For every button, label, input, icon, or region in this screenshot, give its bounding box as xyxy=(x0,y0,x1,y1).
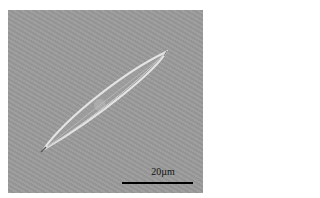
scale-bar xyxy=(122,182,193,184)
scale-bar-label: 20µm xyxy=(138,167,188,177)
